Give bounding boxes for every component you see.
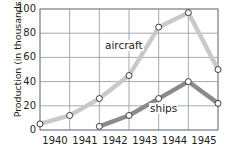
x-tick-1944: 1944 xyxy=(159,136,190,146)
x-tick-1945: 1945 xyxy=(189,136,219,146)
production-line-chart: Production (in thousands) 100 80 60 40 2… xyxy=(0,0,225,152)
x-tick-1941: 1941 xyxy=(70,136,100,146)
series-label-aircraft: aircraft xyxy=(104,40,144,51)
series-label-ships: ships xyxy=(149,103,178,114)
x-axis-tick-labels: 1940 1941 1942 1943 1944 1945 xyxy=(0,0,225,152)
x-tick-1943: 1943 xyxy=(130,136,160,146)
x-tick-1940: 1940 xyxy=(40,136,70,146)
x-tick-1942: 1942 xyxy=(100,136,130,146)
